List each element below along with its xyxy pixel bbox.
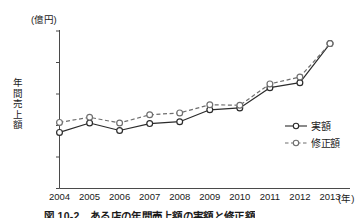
data-point: [117, 128, 123, 134]
data-point: [297, 80, 303, 86]
data-point: [147, 121, 153, 127]
x-axis-tick-label: 2008: [169, 191, 190, 202]
data-point: [177, 110, 183, 116]
series-line-修正額: [60, 44, 331, 123]
x-axis-tick-label: 2012: [289, 191, 310, 202]
data-point: [57, 130, 63, 136]
x-axis-tick-label: 2007: [139, 191, 160, 202]
chart-plot-area: [0, 0, 363, 218]
legend-marker-solid-icon: [284, 120, 308, 132]
data-point: [267, 81, 273, 87]
data-point: [177, 119, 183, 125]
x-axis-tick-label: 2004: [49, 191, 70, 202]
legend-item-actual: 実額: [284, 118, 340, 133]
data-point: [207, 102, 213, 108]
data-point: [147, 112, 153, 118]
x-axis-unit-label: (年): [338, 191, 354, 205]
data-point: [87, 120, 93, 126]
chart-figure: (億円) 年間売上額 05001000150020002500 20042005…: [0, 0, 363, 218]
legend-marker-dashed-icon: [284, 137, 308, 149]
legend-label-actual: 実額: [311, 118, 330, 133]
data-point: [327, 41, 333, 47]
figure-caption: 図 10-2 ある店の年間売上額の実額と修正額: [44, 208, 255, 218]
legend-label-adjusted: 修正額: [311, 135, 340, 150]
x-axis-tick-label: 2005: [79, 191, 100, 202]
legend-item-adjusted: 修正額: [284, 135, 340, 150]
x-axis-tick-label: 2006: [109, 191, 130, 202]
x-axis-tick-label: 2010: [229, 191, 250, 202]
chart-legend: 実額 修正額: [284, 118, 340, 152]
data-point: [237, 102, 243, 108]
x-axis-tick-label: 2011: [260, 191, 280, 202]
x-axis-tick-label: 2009: [199, 191, 220, 202]
data-point: [57, 120, 63, 126]
data-point: [297, 74, 303, 80]
data-point: [117, 120, 123, 126]
data-point: [87, 114, 93, 120]
